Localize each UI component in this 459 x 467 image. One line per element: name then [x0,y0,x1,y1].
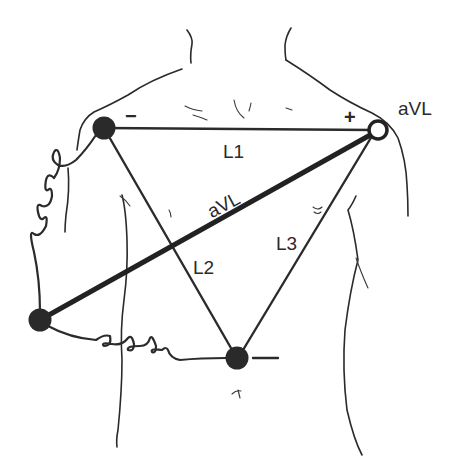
clavicle-mark-right [286,108,292,110]
electrode-left-arm-aVL [369,121,387,139]
aVL-electrode-label: aVL [398,98,432,119]
sternum-mark-2 [249,103,251,111]
neck-left-line [187,30,192,63]
nipple-right-mark-2 [314,212,321,214]
L2-label: L2 [193,257,214,278]
minus-sign-top: − [125,105,137,127]
L3-label: L3 [276,233,297,254]
axilla-left-mark [120,196,130,206]
nipple-left-mark [169,210,171,217]
ecg-lead-diagram: − + aVL L1 aVL L2 L3 [0,0,459,467]
axilla-right-mark [356,258,368,288]
lead-L1-line [104,128,374,130]
lead-aVL-line [40,134,372,320]
torso-outline [65,28,408,455]
torso-left-side [117,195,128,447]
plus-sign-top: + [344,106,356,128]
clavicle-mark-left [185,106,202,111]
L1-label: L1 [223,141,244,162]
diagram-canvas: − + aVL L1 aVL L2 L3 [0,0,459,467]
coiled-wire-lower [48,326,226,360]
arm-left-inner-line [65,168,69,232]
coiled-wire-upper [31,135,96,312]
sternum-mark [234,100,244,118]
electrode-right-leg [29,309,52,332]
lead-L2-line [104,128,235,355]
clavicle-mark-left-2 [193,115,207,120]
nipple-right-mark [313,207,322,209]
navel-mark [232,391,241,394]
lead-lines [40,128,374,358]
electrode-left-leg [226,347,249,370]
shoulder-right-line [286,60,408,216]
neck-right-line [285,28,291,60]
torso-right-side [344,196,362,455]
electrode-right-arm [93,117,116,140]
